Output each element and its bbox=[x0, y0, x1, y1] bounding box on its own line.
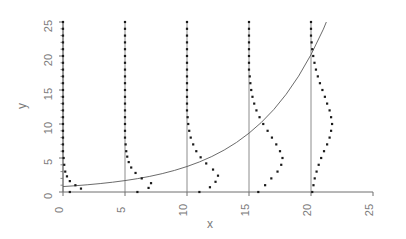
density-dot bbox=[62, 82, 64, 84]
density-dot bbox=[126, 156, 128, 158]
density-dot bbox=[321, 89, 323, 91]
density-dot bbox=[186, 82, 188, 84]
density-dot bbox=[124, 130, 126, 132]
density-dot bbox=[186, 62, 188, 64]
density-dot bbox=[187, 123, 189, 125]
density-dot bbox=[125, 150, 127, 152]
density-dot bbox=[264, 184, 266, 186]
density-dot bbox=[62, 116, 64, 118]
density-dot bbox=[186, 75, 188, 77]
density-dot bbox=[198, 191, 200, 193]
density-dot bbox=[141, 177, 143, 179]
density-dot bbox=[276, 171, 278, 173]
density-dot bbox=[326, 143, 328, 145]
density-dot bbox=[147, 187, 149, 189]
density-dot bbox=[62, 96, 64, 98]
density-dot bbox=[124, 109, 126, 111]
density-dot bbox=[320, 157, 322, 159]
density-dot bbox=[62, 109, 64, 111]
density-dot bbox=[270, 177, 272, 179]
density-dot bbox=[136, 191, 138, 193]
density-dot bbox=[63, 157, 65, 159]
density-dot bbox=[248, 69, 250, 71]
y-tick-label-20: 20 bbox=[42, 54, 54, 66]
density-dot bbox=[330, 130, 332, 132]
density-dot bbox=[315, 69, 317, 71]
density-dot bbox=[248, 41, 250, 43]
density-dot bbox=[248, 21, 250, 23]
density-dot bbox=[319, 82, 321, 84]
y-tick-label-25: 25 bbox=[42, 20, 54, 32]
density-dot bbox=[329, 109, 331, 111]
density-dot bbox=[62, 69, 64, 71]
density-dot bbox=[312, 55, 314, 57]
density-dot bbox=[124, 41, 126, 43]
density-dot bbox=[311, 41, 313, 43]
density-dot bbox=[124, 137, 126, 139]
x-tick-label-10: 10 bbox=[177, 204, 189, 216]
density-dot bbox=[62, 48, 64, 50]
y-tick-label-0: 0 bbox=[42, 193, 54, 199]
density-dot bbox=[186, 55, 188, 57]
y-tick-label-10: 10 bbox=[42, 122, 54, 134]
y-axis-title: y bbox=[15, 103, 29, 109]
density-dot bbox=[80, 188, 82, 190]
density-dot bbox=[205, 162, 207, 164]
density-dot bbox=[186, 28, 188, 30]
density-dot bbox=[262, 123, 264, 125]
density-dot bbox=[311, 48, 313, 50]
density-dot bbox=[186, 89, 188, 91]
density-dot bbox=[275, 143, 277, 145]
density-dot bbox=[217, 175, 219, 177]
density-dot bbox=[69, 191, 71, 193]
density-dot bbox=[128, 161, 130, 163]
density-dot bbox=[188, 130, 190, 132]
density-dot bbox=[64, 171, 66, 173]
x-tick-label-5: 5 bbox=[115, 207, 127, 213]
density-dot bbox=[124, 96, 126, 98]
density-dot bbox=[310, 28, 312, 30]
density-dot bbox=[74, 184, 76, 186]
density-dot bbox=[66, 175, 68, 177]
density-dot bbox=[186, 103, 188, 105]
density-dot bbox=[192, 143, 194, 145]
x-tick-label-15: 15 bbox=[239, 204, 251, 216]
density-dot bbox=[310, 21, 312, 23]
density-dot bbox=[62, 123, 64, 125]
density-dot bbox=[248, 35, 250, 37]
density-dot bbox=[124, 55, 126, 57]
x-axis-title: x bbox=[207, 217, 213, 231]
density-dot bbox=[214, 181, 216, 183]
density-dot bbox=[280, 164, 282, 166]
density-dot bbox=[190, 137, 192, 139]
scatter-density-plot: 0510152025 0510152025 x y bbox=[0, 0, 406, 239]
density-dot bbox=[323, 150, 325, 152]
density-dot bbox=[62, 103, 64, 105]
density-dot bbox=[195, 150, 197, 152]
density-dot bbox=[271, 137, 273, 139]
density-dot bbox=[186, 48, 188, 50]
density-dot bbox=[248, 62, 250, 64]
density-dot bbox=[314, 177, 316, 179]
density-dot bbox=[186, 109, 188, 111]
density-dot bbox=[249, 82, 251, 84]
density-dot bbox=[250, 89, 252, 91]
density-dot bbox=[62, 75, 64, 77]
density-dot bbox=[62, 89, 64, 91]
density-dot bbox=[331, 123, 333, 125]
density-dot bbox=[311, 191, 313, 193]
density-dot bbox=[248, 48, 250, 50]
density-dot bbox=[124, 28, 126, 30]
density-dot bbox=[200, 156, 202, 158]
density-dot bbox=[124, 103, 126, 105]
density-dot bbox=[186, 21, 188, 23]
density-dot bbox=[124, 75, 126, 77]
y-tick-label-5: 5 bbox=[42, 159, 54, 165]
density-dot bbox=[329, 137, 331, 139]
x-tick-label-25: 25 bbox=[363, 204, 375, 216]
density-dot bbox=[62, 143, 64, 145]
density-dot bbox=[124, 21, 126, 23]
density-dot bbox=[248, 55, 250, 57]
density-dot bbox=[125, 143, 127, 145]
density-dot bbox=[124, 89, 126, 91]
